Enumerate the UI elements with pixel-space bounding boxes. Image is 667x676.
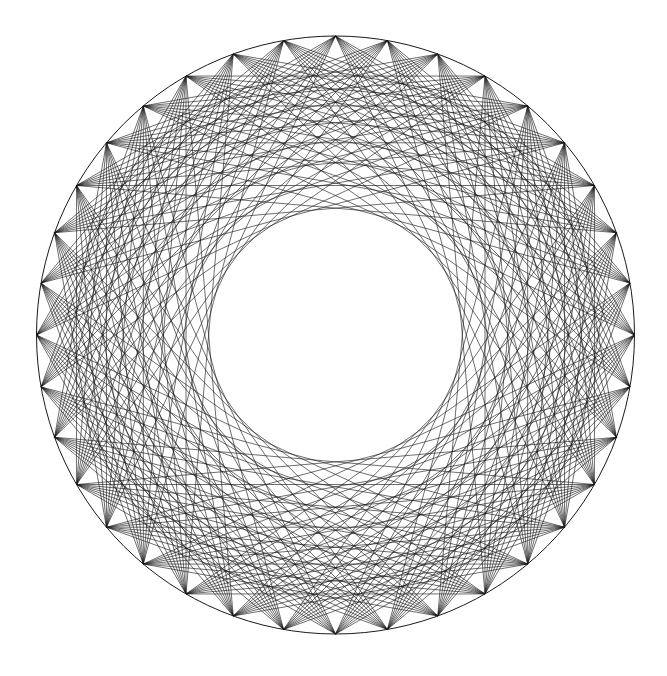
chord-line — [77, 54, 234, 484]
chord-line — [55, 437, 485, 594]
chord-line — [438, 186, 595, 616]
chord-line — [143, 54, 233, 564]
chord-line — [336, 485, 595, 635]
chord-lines — [37, 36, 635, 634]
chord-line — [55, 76, 485, 233]
chord-line — [77, 143, 107, 485]
chord-line — [438, 54, 595, 484]
chord-line — [143, 335, 634, 564]
chord-line — [233, 233, 616, 616]
chord-line — [485, 335, 635, 594]
chord-line — [77, 186, 107, 528]
chord-line — [106, 527, 387, 629]
chord-line — [528, 283, 630, 564]
chord-line — [55, 54, 438, 437]
chord-line — [143, 106, 634, 335]
chord-line — [565, 143, 595, 485]
chord-line — [77, 36, 336, 186]
chord-line — [143, 76, 485, 106]
chord-line — [143, 106, 233, 616]
chord-line — [143, 564, 485, 594]
chord-line — [55, 233, 438, 616]
chord-line — [106, 36, 335, 527]
chord-line — [233, 54, 616, 437]
chord-line — [565, 186, 595, 528]
chord-line — [106, 143, 616, 233]
chord-line — [37, 106, 528, 335]
chord-line — [55, 437, 565, 527]
chord-line — [41, 283, 143, 564]
chord-line — [77, 186, 234, 616]
chord-line — [336, 36, 565, 527]
chord-line — [37, 335, 528, 564]
chord-line — [41, 106, 143, 387]
chord-line — [77, 485, 336, 635]
chord-line — [106, 437, 616, 527]
chord-line — [37, 335, 187, 594]
chord-line — [284, 527, 565, 629]
chord-line — [186, 564, 528, 594]
chord-line — [37, 76, 187, 335]
chord-line — [284, 41, 565, 143]
chord-line — [106, 41, 387, 143]
chord-line — [106, 143, 335, 634]
chord-line — [336, 36, 595, 186]
chord-line — [438, 54, 528, 564]
chord-line — [186, 437, 616, 594]
chord-line — [186, 76, 616, 233]
string-art-diagram — [0, 0, 667, 676]
chord-line — [186, 76, 528, 106]
chord-line — [438, 106, 528, 616]
chord-line — [55, 143, 565, 233]
chord-line — [336, 143, 565, 634]
chord-line — [485, 76, 635, 335]
chord-line — [528, 106, 630, 387]
